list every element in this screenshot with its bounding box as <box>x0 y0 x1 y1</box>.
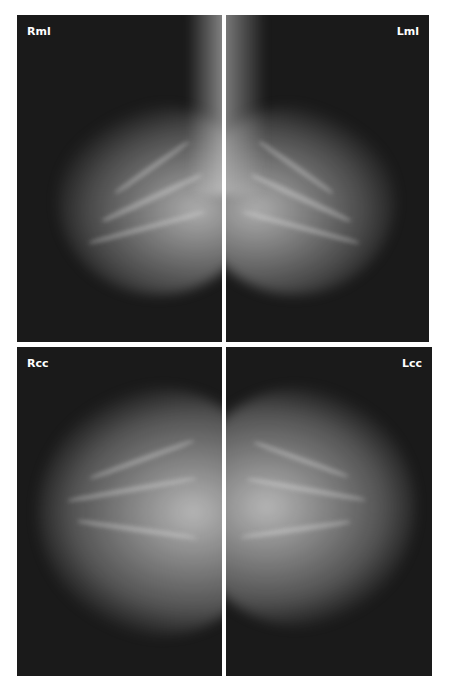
view-label: Rcc <box>27 357 49 370</box>
pectoral-muscle <box>226 15 266 195</box>
view-label: Lml <box>397 25 419 38</box>
panel-lcc: Lcc <box>226 347 432 676</box>
view-label: Rml <box>27 25 51 38</box>
panel-lml: Lml <box>226 15 429 342</box>
panel-rml: Rml <box>17 15 222 342</box>
panel-rcc: Rcc <box>17 347 222 676</box>
view-label: Lcc <box>402 357 422 370</box>
breast-tissue <box>37 387 222 637</box>
breast-tissue <box>226 387 416 627</box>
pectoral-muscle <box>187 15 222 195</box>
